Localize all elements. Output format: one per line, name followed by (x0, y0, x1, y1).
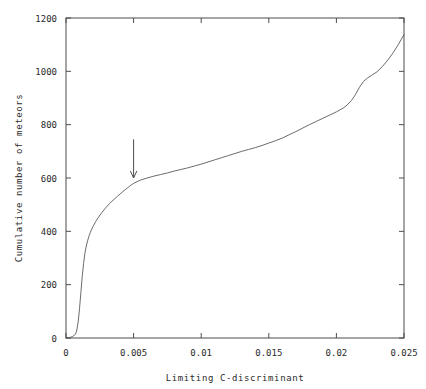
y-tick-label: 1000 (35, 67, 57, 77)
x-axis-tick-labels: 00.0050.010.0150.020.025 (63, 348, 417, 358)
plot-frame (66, 18, 404, 338)
y-tick-label: 1200 (35, 14, 57, 24)
y-axis-tick-labels: 020040060080010001200 (35, 14, 57, 344)
y-tick-label: 600 (41, 174, 57, 184)
y-tick-label: 800 (41, 120, 57, 130)
y-tick-label: 200 (41, 280, 57, 290)
top-axis-ticks (66, 18, 404, 23)
y-tick-label: 400 (41, 227, 57, 237)
x-tick-label: 0.005 (120, 348, 147, 358)
annotation-arrow (130, 139, 136, 178)
y-axis-label: Cumulative number of meteors (14, 94, 24, 263)
chart-figure: 00.0050.010.0150.020.025 020040060080010… (0, 0, 426, 389)
cumulative-meteor-plot: 00.0050.010.0150.020.025 020040060080010… (0, 0, 426, 389)
x-tick-label: 0.015 (255, 348, 282, 358)
x-tick-label: 0.02 (326, 348, 348, 358)
data-series-line (66, 35, 404, 338)
y-axis-ticks (66, 18, 71, 338)
x-axis-label: Limiting C-discriminant (166, 373, 304, 383)
x-axis-ticks (66, 333, 404, 338)
x-tick-label: 0.01 (190, 348, 212, 358)
right-axis-ticks (399, 18, 404, 338)
x-tick-label: 0.025 (390, 348, 417, 358)
x-tick-label: 0 (63, 348, 68, 358)
y-tick-label: 0 (52, 334, 57, 344)
